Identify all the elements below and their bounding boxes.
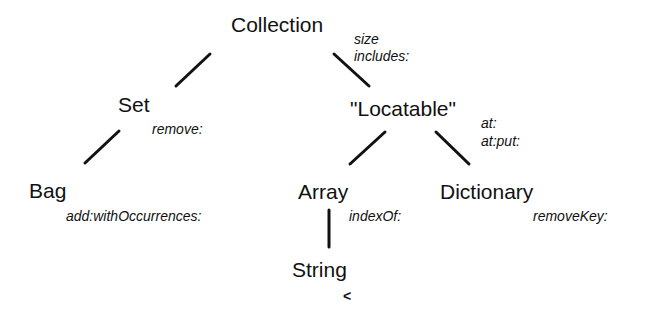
method-index-of: indexOf: bbox=[349, 208, 401, 225]
method-size: size bbox=[354, 31, 379, 48]
class-hierarchy-diagram: Collection size includes: Set remove: "L… bbox=[0, 0, 656, 324]
node-string: String bbox=[292, 259, 347, 281]
method-at: at: bbox=[481, 115, 497, 132]
node-dictionary: Dictionary bbox=[440, 181, 533, 203]
method-at-put: at:put: bbox=[481, 133, 520, 150]
node-locatable: "Locatable" bbox=[350, 98, 456, 120]
node-set: Set bbox=[118, 94, 150, 116]
method-remove-key: removeKey: bbox=[533, 208, 608, 225]
node-collection: Collection bbox=[231, 14, 323, 36]
edge-locatable-array bbox=[350, 132, 385, 164]
method-remove: remove: bbox=[152, 121, 203, 138]
edge-locatable-dictionary bbox=[436, 132, 469, 164]
edge-collection-set bbox=[176, 54, 210, 86]
method-includes: includes: bbox=[354, 48, 409, 65]
node-array: Array bbox=[298, 181, 348, 203]
method-less-than: < bbox=[343, 288, 351, 305]
edge-set-bag bbox=[85, 131, 119, 163]
node-bag: Bag bbox=[29, 180, 66, 202]
method-add-with-occurrences: add:withOccurrences: bbox=[66, 208, 201, 225]
